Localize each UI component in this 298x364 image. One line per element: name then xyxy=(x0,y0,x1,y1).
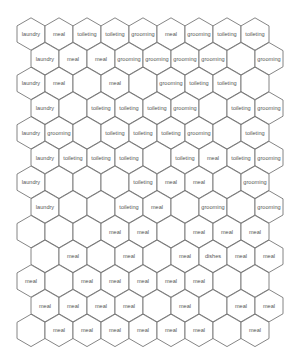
hex-label: laundry xyxy=(22,31,41,37)
hex-label: meal xyxy=(53,327,65,333)
hex-label: meal xyxy=(67,56,79,62)
hex-label: meal xyxy=(109,229,121,235)
hex-label: grooming xyxy=(159,80,182,86)
hex-row: mealmealmealdishesmealmeal xyxy=(31,240,283,272)
hex-label: laundry xyxy=(36,105,55,111)
hex-label: meal xyxy=(193,327,205,333)
hex-label: meal xyxy=(263,303,275,309)
hex-label: laundry xyxy=(36,56,55,62)
hex-label: laundry xyxy=(22,80,41,86)
hex-label: toileting xyxy=(133,130,152,136)
hex-label: toileting xyxy=(189,80,208,86)
hex-label: meal xyxy=(81,327,93,333)
hex-label: toileting xyxy=(119,204,138,210)
hex-row: laundrytoiletingmealgroominggrooming xyxy=(31,191,283,223)
hex-label: meal xyxy=(165,278,177,284)
hex-label: meal xyxy=(25,278,37,284)
hex-label: meal xyxy=(109,278,121,284)
hex-label: meal xyxy=(249,327,261,333)
hex-row: laundrymealtoiletingtoiletinggroomingmea… xyxy=(17,18,269,50)
hex-label: meal xyxy=(221,229,233,235)
hex-label: grooming xyxy=(201,204,224,210)
hex-label: toileting xyxy=(63,155,82,161)
hex-label: dishes xyxy=(205,253,221,259)
hex-label: meal xyxy=(123,253,135,259)
hex-grid: laundrymealtoiletingtoiletinggroomingmea… xyxy=(0,0,298,364)
hex-label: grooming xyxy=(201,56,224,62)
hex-label: meal xyxy=(123,303,135,309)
hex-label: laundry xyxy=(22,130,41,136)
hex-label: meal xyxy=(109,80,121,86)
hex-label: meal xyxy=(137,278,149,284)
hex-label: meal xyxy=(179,253,191,259)
hex-label: grooming xyxy=(173,105,196,111)
hex-row: laundrytoiletingtoiletingtoiletinggroomi… xyxy=(31,92,283,124)
hex-label: meal xyxy=(165,179,177,185)
hex-label: grooming xyxy=(257,204,280,210)
hex-label: grooming xyxy=(187,130,210,136)
hex-label: meal xyxy=(53,80,65,86)
hex-label: toileting xyxy=(119,105,138,111)
hex-label: laundry xyxy=(22,179,41,185)
hex-label: grooming xyxy=(187,31,210,37)
hex-label: grooming xyxy=(257,155,280,161)
hex-label: meal xyxy=(193,179,205,185)
hex-label: toileting xyxy=(77,31,96,37)
hex-label: meal xyxy=(67,303,79,309)
hex-label: toileting xyxy=(231,105,250,111)
hex-row: laundrygroomingtoiletingtoiletingtoileti… xyxy=(17,117,269,149)
hex-label: toileting xyxy=(161,130,180,136)
hex-label: meal xyxy=(95,56,107,62)
hex-label: meal xyxy=(151,204,163,210)
hex-label: meal xyxy=(81,278,93,284)
hex-label: toileting xyxy=(231,155,250,161)
hex-label: meal xyxy=(235,303,247,309)
hex-label: grooming xyxy=(243,179,266,185)
hex-label: meal xyxy=(137,327,149,333)
hex-row: laundrymealmealgroominggroominggroomingg… xyxy=(31,43,283,75)
hex-label: grooming xyxy=(145,56,168,62)
hex-label: toileting xyxy=(91,105,110,111)
hex-row: mealmealmealmealmealmeal xyxy=(17,265,269,297)
hex-label: grooming xyxy=(131,31,154,37)
hex-label: meal xyxy=(263,253,275,259)
hex-label: grooming xyxy=(47,130,70,136)
hex-label: toileting xyxy=(217,31,236,37)
hex-label: meal xyxy=(137,229,149,235)
hex-label: meal xyxy=(165,327,177,333)
hex-label: toileting xyxy=(217,80,236,86)
hex-label: toileting xyxy=(91,155,110,161)
hex-label: meal xyxy=(95,303,107,309)
hex-row: mealmealmealmealmeal xyxy=(17,215,269,247)
hex-row: laundrytoiletingmealmealgrooming xyxy=(17,166,269,198)
hex-label: meal xyxy=(109,327,121,333)
hex-label: laundry xyxy=(36,204,55,210)
hex-row: laundrymealmealgroomingtoiletingtoiletin… xyxy=(17,67,269,99)
hex-label: meal xyxy=(235,253,247,259)
hex-label: toileting xyxy=(133,179,152,185)
hex-label: meal xyxy=(39,303,51,309)
hex-label: laundry xyxy=(36,155,55,161)
hex-label: toileting xyxy=(119,155,138,161)
hex-label: meal xyxy=(179,303,191,309)
hex-label: toileting xyxy=(245,130,264,136)
hex-label: meal xyxy=(53,31,65,37)
hex-label: toileting xyxy=(175,155,194,161)
hex-row: mealmealmealmealmealmealmeal xyxy=(31,290,283,322)
hex-label: meal xyxy=(249,229,261,235)
hex-label: meal xyxy=(207,155,219,161)
hex-label: meal xyxy=(165,31,177,37)
hex-label: grooming xyxy=(117,56,140,62)
hex-label: grooming xyxy=(257,56,280,62)
hex-label: meal xyxy=(67,253,79,259)
hex-label: toileting xyxy=(147,105,166,111)
hex-row: laundrytoiletingtoiletingtoiletingtoilet… xyxy=(31,141,283,173)
hex-label: toileting xyxy=(105,130,124,136)
hex-row: mealmealmealmealmealmealmeal xyxy=(17,314,269,346)
hex-label: toileting xyxy=(245,31,264,37)
hex-label: meal xyxy=(193,278,205,284)
hex-label: toileting xyxy=(105,31,124,37)
hex-label: meal xyxy=(193,229,205,235)
hex-label: grooming xyxy=(173,56,196,62)
hex-label: grooming xyxy=(257,105,280,111)
